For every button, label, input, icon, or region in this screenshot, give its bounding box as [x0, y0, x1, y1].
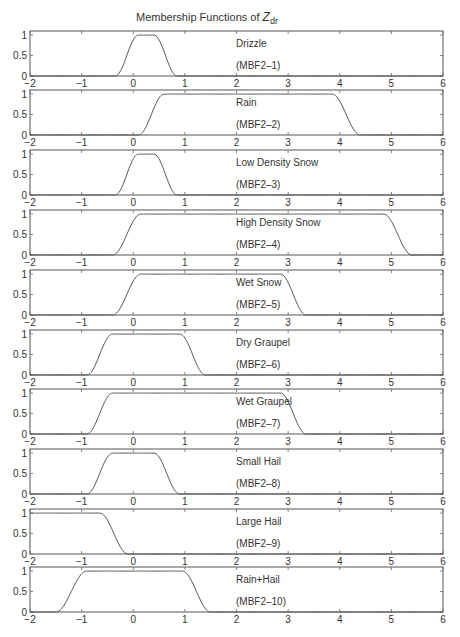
x-tick-label: 2 — [234, 377, 240, 388]
x-tick-label: 3 — [285, 436, 291, 447]
class-name-label: Wet Graupel — [236, 396, 292, 407]
x-tick-label: 3 — [285, 78, 291, 89]
class-name-label: Drizzle — [236, 38, 267, 49]
x-tick-label: −1 — [76, 556, 88, 567]
x-tick-label: 6 — [440, 377, 446, 388]
x-tick-label: 5 — [389, 78, 395, 89]
y-tick-label: 0 — [21, 489, 27, 500]
x-tick-label: 2 — [234, 78, 240, 89]
x-tick-label: 2 — [234, 137, 240, 148]
x-tick-label: 6 — [440, 556, 446, 567]
class-name-label: Large Hail — [236, 516, 282, 527]
x-tick-label: 5 — [389, 436, 395, 447]
x-tick-label: 4 — [337, 436, 343, 447]
x-tick-label: 2 — [234, 317, 240, 328]
x-tick-label: 0 — [130, 78, 136, 89]
y-tick-label: 0 — [21, 429, 27, 440]
x-tick-label: 0 — [130, 436, 136, 447]
x-tick-label: 6 — [440, 78, 446, 89]
y-tick-label: 1 — [21, 388, 27, 399]
x-tick-label: 1 — [182, 137, 188, 148]
membership-function-panels: −2−1012345600.51Drizzle(MBF2–1)−2−101234… — [0, 0, 460, 637]
class-name-label: Dry Graupel — [236, 337, 290, 348]
y-tick-label: 0.5 — [13, 468, 27, 479]
x-tick-label: 4 — [337, 377, 343, 388]
x-tick-label: 6 — [440, 197, 446, 208]
y-tick-label: 0.5 — [13, 229, 27, 240]
y-tick-label: 1 — [21, 448, 27, 459]
x-tick-label: 5 — [389, 556, 395, 567]
y-tick-label: 0 — [21, 250, 27, 261]
x-tick-label: 5 — [389, 137, 395, 148]
x-tick-label: −1 — [76, 137, 88, 148]
x-tick-label: 2 — [234, 257, 240, 268]
x-tick-label: 3 — [285, 377, 291, 388]
x-tick-label: 5 — [389, 197, 395, 208]
x-tick-label: 0 — [130, 614, 136, 625]
x-tick-label: 1 — [182, 377, 188, 388]
x-tick-label: 2 — [234, 614, 240, 625]
panel-4: −2−1012345600.51High Density Snow(MBF2–4… — [13, 209, 446, 268]
x-tick-label: −1 — [76, 257, 88, 268]
x-tick-label: 0 — [130, 257, 136, 268]
y-tick-label: 0.5 — [13, 586, 27, 597]
class-code-label: (MBF2–4) — [236, 239, 280, 250]
x-tick-label: 0 — [130, 137, 136, 148]
x-tick-label: 6 — [440, 614, 446, 625]
class-name-label: Rain+Hail — [236, 574, 280, 585]
x-tick-label: 4 — [337, 317, 343, 328]
class-code-label: (MBF2–10) — [236, 596, 286, 607]
class-code-label: (MBF2–2) — [236, 119, 280, 130]
class-code-label: (MBF2–3) — [236, 179, 280, 190]
x-tick-label: 1 — [182, 496, 188, 507]
y-tick-label: 0.5 — [13, 289, 27, 300]
x-tick-label: −1 — [76, 436, 88, 447]
x-tick-label: 3 — [285, 197, 291, 208]
x-tick-label: −1 — [76, 78, 88, 89]
x-tick-label: −1 — [76, 377, 88, 388]
x-tick-label: −1 — [76, 614, 88, 625]
panel-2: −2−1012345600.51Rain(MBF2–2) — [13, 89, 446, 148]
x-tick-label: 1 — [182, 556, 188, 567]
x-tick-label: 3 — [285, 556, 291, 567]
x-tick-label: 4 — [337, 496, 343, 507]
x-tick-label: 5 — [389, 614, 395, 625]
x-tick-label: 5 — [389, 377, 395, 388]
x-tick-label: 4 — [337, 556, 343, 567]
x-tick-label: 3 — [285, 317, 291, 328]
x-tick-label: 4 — [337, 197, 343, 208]
x-tick-label: 1 — [182, 78, 188, 89]
x-tick-label: 6 — [440, 317, 446, 328]
panel-9: −2−1012345600.51Large Hail(MBF2–9) — [13, 508, 446, 567]
y-tick-label: 1 — [21, 329, 27, 340]
x-tick-label: 0 — [130, 496, 136, 507]
x-tick-label: 1 — [182, 257, 188, 268]
y-tick-label: 0.5 — [13, 109, 27, 120]
class-name-label: Low Density Snow — [236, 157, 319, 168]
panel-6: −2−1012345600.51Dry Graupel(MBF2–6) — [13, 329, 446, 388]
x-tick-label: −1 — [76, 496, 88, 507]
x-tick-label: 3 — [285, 137, 291, 148]
x-tick-label: 5 — [389, 496, 395, 507]
y-tick-label: 0.5 — [13, 408, 27, 419]
x-tick-label: 3 — [285, 614, 291, 625]
x-tick-label: 4 — [337, 614, 343, 625]
y-tick-label: 1 — [21, 149, 27, 160]
x-tick-label: 3 — [285, 257, 291, 268]
x-tick-label: 6 — [440, 137, 446, 148]
y-tick-label: 0.5 — [13, 50, 27, 61]
y-tick-label: 1 — [21, 89, 27, 100]
y-tick-label: 1 — [21, 566, 27, 577]
class-name-label: Small Hail — [236, 456, 281, 467]
x-tick-label: 0 — [130, 377, 136, 388]
panel-8: −2−1012345600.51Small Hail(MBF2–8) — [13, 448, 446, 507]
y-tick-label: 0 — [21, 71, 27, 82]
x-tick-label: 0 — [130, 317, 136, 328]
y-tick-label: 0 — [21, 310, 27, 321]
y-tick-label: 0.5 — [13, 528, 27, 539]
class-code-label: (MBF2–8) — [236, 478, 280, 489]
y-tick-label: 1 — [21, 269, 27, 280]
class-code-label: (MBF2–6) — [236, 359, 280, 370]
y-tick-label: 0 — [21, 130, 27, 141]
x-tick-label: 0 — [130, 197, 136, 208]
